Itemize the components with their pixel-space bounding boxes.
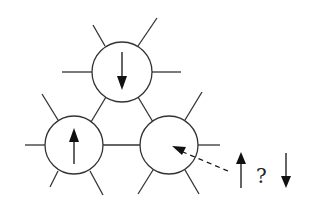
option-down-arrow-icon xyxy=(281,153,291,188)
site-right xyxy=(140,116,198,174)
stub xyxy=(93,25,105,46)
frustration-diagram: ? xyxy=(0,0,313,208)
stub xyxy=(138,18,157,46)
stub xyxy=(50,171,58,187)
stub xyxy=(42,94,58,120)
stub xyxy=(185,170,199,194)
bond-top-right xyxy=(138,97,153,122)
stub xyxy=(138,170,153,194)
stub xyxy=(90,171,103,195)
question-mark-label: ? xyxy=(256,164,267,188)
bond-top-left xyxy=(91,97,106,122)
option-up-arrow-icon xyxy=(236,152,246,188)
stub xyxy=(185,92,202,120)
